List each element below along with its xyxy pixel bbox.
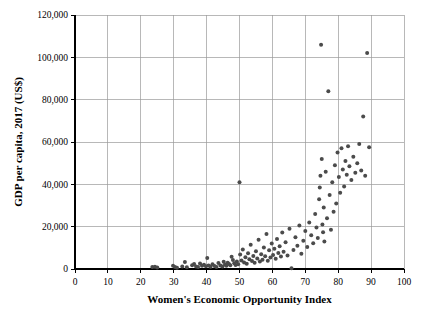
- y-tick-label: 0: [63, 264, 68, 274]
- data-point: [286, 253, 290, 257]
- data-point: [272, 247, 276, 251]
- data-point: [307, 220, 311, 224]
- data-point: [342, 184, 346, 188]
- data-point: [228, 263, 232, 267]
- data-point: [261, 258, 265, 262]
- data-point: [365, 51, 369, 55]
- data-point: [325, 216, 329, 220]
- data-point: [280, 231, 284, 235]
- data-point: [311, 241, 315, 245]
- y-tick-label: 100,000: [37, 53, 68, 63]
- data-point: [196, 265, 200, 269]
- data-point: [341, 168, 345, 172]
- data-point: [363, 174, 367, 178]
- data-point: [264, 232, 268, 236]
- x-tick-label: 0: [73, 277, 78, 287]
- data-point: [155, 266, 159, 270]
- data-point: [361, 115, 365, 119]
- data-point: [357, 142, 361, 146]
- data-point: [274, 257, 278, 261]
- data-point: [319, 43, 323, 47]
- data-point: [245, 262, 249, 266]
- x-tick-label: 90: [366, 277, 376, 287]
- data-point: [293, 235, 297, 239]
- y-tick-label: 40,000: [42, 180, 68, 190]
- data-point: [259, 252, 263, 256]
- data-point: [317, 197, 321, 201]
- data-point: [322, 239, 326, 243]
- data-point: [238, 253, 242, 257]
- data-point: [336, 151, 340, 155]
- data-point: [299, 252, 303, 256]
- x-tick-label: 60: [268, 277, 278, 287]
- data-point: [267, 248, 271, 252]
- data-point: [313, 212, 317, 216]
- data-point: [351, 155, 355, 159]
- y-axis-title: GDP per capita, 2017 (US$): [12, 77, 25, 207]
- data-point: [205, 256, 209, 260]
- data-point: [249, 243, 253, 247]
- data-point: [236, 262, 240, 266]
- data-point: [246, 251, 250, 255]
- x-tick-label: 70: [301, 277, 311, 287]
- data-point: [284, 240, 288, 244]
- x-axis-title: Women's Economic Opportunity Index: [147, 293, 332, 305]
- data-point: [301, 239, 305, 243]
- data-point: [359, 169, 363, 173]
- x-tick-label: 80: [333, 277, 343, 287]
- data-point: [318, 174, 322, 178]
- data-point: [316, 236, 320, 240]
- data-point: [270, 242, 274, 246]
- x-tick-label: 100: [397, 277, 412, 287]
- data-point: [297, 224, 301, 228]
- data-point: [338, 191, 342, 195]
- data-point: [324, 170, 328, 174]
- scatter-plot-figure: 020,00040,00060,00080,000100,000120,0000…: [0, 0, 429, 316]
- data-point: [288, 227, 292, 231]
- data-point: [278, 244, 282, 248]
- data-point: [291, 248, 295, 252]
- data-point: [347, 164, 351, 168]
- data-point: [367, 145, 371, 149]
- data-point: [318, 186, 322, 190]
- data-point: [263, 254, 267, 258]
- data-point: [339, 146, 343, 150]
- data-point: [345, 173, 349, 177]
- data-point: [326, 89, 330, 93]
- data-point: [266, 259, 270, 263]
- data-point: [214, 265, 218, 269]
- chart-canvas: 020,00040,00060,00080,000100,000120,0000…: [0, 0, 429, 316]
- data-point: [322, 206, 326, 210]
- data-point: [330, 180, 334, 184]
- data-point: [238, 180, 242, 184]
- data-point: [349, 178, 353, 182]
- x-tick-label: 50: [235, 277, 245, 287]
- data-point: [262, 245, 266, 249]
- data-point: [257, 238, 261, 242]
- data-point: [355, 161, 359, 165]
- data-point: [320, 223, 324, 227]
- data-point: [333, 163, 337, 167]
- data-point: [271, 253, 275, 257]
- y-tick-label: 80,000: [42, 95, 68, 105]
- data-point: [295, 244, 299, 248]
- data-point: [320, 157, 324, 161]
- data-point: [343, 159, 347, 163]
- data-point: [332, 210, 336, 214]
- data-point: [329, 228, 333, 232]
- data-point: [303, 229, 307, 233]
- data-point: [309, 233, 313, 237]
- x-tick-label: 40: [202, 277, 212, 287]
- data-point: [337, 175, 341, 179]
- data-point: [183, 260, 187, 264]
- data-point: [314, 226, 318, 230]
- data-point: [253, 261, 257, 265]
- x-tick-label: 20: [136, 277, 146, 287]
- y-tick-label: 60,000: [42, 137, 68, 147]
- data-point: [346, 144, 350, 148]
- data-point: [243, 255, 247, 259]
- data-point: [241, 248, 245, 252]
- data-point: [255, 256, 259, 260]
- data-point: [305, 245, 309, 249]
- x-tick-label: 30: [169, 277, 179, 287]
